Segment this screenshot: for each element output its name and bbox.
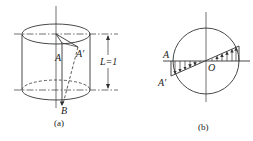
label-a: A	[162, 49, 170, 60]
label-a: A	[54, 52, 62, 63]
caption-a: (a)	[54, 118, 64, 128]
right-shear-arrows	[212, 48, 236, 61]
label-o: O	[208, 62, 215, 73]
length-label: L=1	[99, 56, 117, 67]
radius-to-a-prime	[56, 34, 78, 47]
label-b: B	[61, 105, 67, 116]
label-a-prime: A′	[75, 48, 85, 59]
panel-a-cylinder: L=1 A A′ B (a)	[14, 6, 120, 128]
left-shear-arrows	[175, 61, 200, 74]
caption-b: (b)	[198, 122, 209, 132]
figure-canvas: L=1 A A′ B (a)	[0, 0, 253, 141]
label-a-prime: A′	[157, 77, 167, 88]
dimension-arrow-bottom-icon	[106, 84, 110, 89]
dimension-arrow-top-icon	[106, 35, 110, 40]
panel-b-cross-section: A O A′ (b)	[157, 12, 250, 132]
